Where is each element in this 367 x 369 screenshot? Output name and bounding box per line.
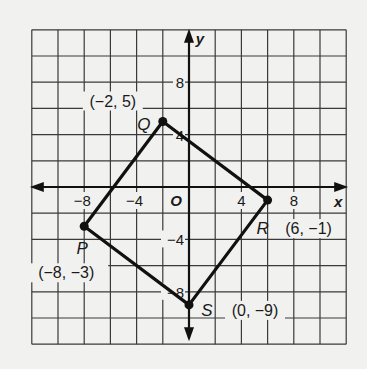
vertex-name-s: S xyxy=(201,301,213,320)
vertex-coordinate-s: (0, −9) xyxy=(232,302,279,319)
coordinate-plane-figure: xy −8−44884−4−8O P(−8, −3)Q(−2, 5)R(6, −… xyxy=(0,0,367,369)
origin-label: O xyxy=(170,192,182,209)
vertex-name-p: P xyxy=(77,239,89,258)
vertex-point-s xyxy=(185,300,194,309)
vertex-point-p xyxy=(80,222,89,231)
vertex-point-q xyxy=(158,117,167,126)
y-axis-label: y xyxy=(195,30,205,47)
vertex-coordinate-r: (6, −1) xyxy=(285,220,332,237)
vertex-coordinate-p: (−8, −3) xyxy=(38,264,94,281)
vertex-point-r xyxy=(263,196,272,205)
y-axis-up-arrow-icon xyxy=(184,29,194,43)
x-tick-label: 4 xyxy=(237,192,245,209)
vertex-name-q: Q xyxy=(137,115,150,134)
vertex-coordinate-q: (−2, 5) xyxy=(89,93,136,110)
y-tick-label: −4 xyxy=(167,231,184,248)
x-tick-label: 8 xyxy=(290,192,298,209)
coordinate-plane: xy −8−44884−4−8O P(−8, −3)Q(−2, 5)R(6, −… xyxy=(0,0,367,369)
x-tick-label: −4 xyxy=(126,192,143,209)
y-axis-down-arrow-icon xyxy=(184,327,194,341)
x-tick-label: −8 xyxy=(74,192,91,209)
x-axis-label: x xyxy=(333,193,343,210)
axes: xy xyxy=(30,29,348,341)
y-tick-label: 8 xyxy=(176,74,184,91)
vertex-name-r: R xyxy=(256,219,268,238)
